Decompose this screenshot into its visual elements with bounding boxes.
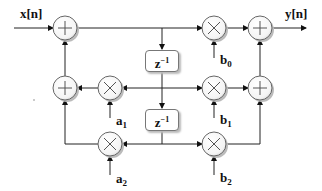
input-label: x[n]	[20, 7, 42, 20]
feedforward-adder	[248, 76, 274, 102]
coeff-a1-label: a1	[116, 114, 127, 130]
mult-b1	[202, 76, 228, 102]
a2-to-adder-line	[65, 100, 98, 144]
mult-a2	[98, 132, 124, 158]
mult-b2	[202, 132, 228, 158]
stray-dot	[33, 99, 35, 101]
coeff-b0-label: b0	[220, 53, 232, 69]
output-adder	[248, 16, 274, 42]
delay-block-1: z−1	[145, 50, 179, 72]
mult-b0	[202, 16, 228, 42]
block-diagram-canvas	[0, 0, 322, 191]
input-adder	[53, 16, 79, 42]
delay-block-2: z−1	[145, 109, 179, 131]
coeff-b2-label: b2	[220, 171, 232, 187]
delay-exponent: −1	[161, 56, 170, 65]
feedback-adder	[53, 76, 79, 102]
delay-exponent: −1	[161, 115, 170, 124]
coeff-a2-label: a2	[116, 172, 127, 188]
output-label: y[n]	[285, 7, 307, 20]
coeff-b1-label: b1	[220, 113, 232, 129]
mult-a1	[98, 76, 124, 102]
